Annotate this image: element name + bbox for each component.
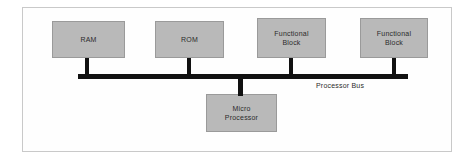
block-diagram-figure: RAM ROM Functional Block Functional Bloc… bbox=[0, 0, 473, 164]
connector-stub-micro-processor bbox=[238, 76, 243, 96]
block-rom: ROM bbox=[155, 21, 224, 58]
block-rom-label: ROM bbox=[181, 35, 198, 44]
block-ram: RAM bbox=[52, 21, 125, 58]
processor-bus-line bbox=[78, 74, 408, 79]
block-functional-1: Functional Block bbox=[257, 18, 326, 58]
block-micro-processor-label: Micro Processor bbox=[225, 104, 258, 122]
block-functional-2: Functional Block bbox=[360, 18, 428, 58]
processor-bus-label: Processor Bus bbox=[316, 82, 364, 89]
block-ram-label: RAM bbox=[80, 35, 96, 44]
block-micro-processor: Micro Processor bbox=[206, 94, 277, 132]
block-functional-1-label: Functional Block bbox=[274, 29, 308, 47]
block-functional-2-label: Functional Block bbox=[377, 29, 411, 47]
